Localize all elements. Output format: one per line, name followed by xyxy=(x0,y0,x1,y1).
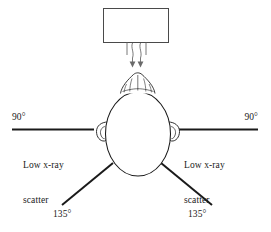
angle-label-right-90: 90° xyxy=(206,112,258,124)
beam-arrow-shaft-right xyxy=(140,43,141,64)
scatter-area-label-left-line3: area xyxy=(23,229,64,232)
xray-tube-box xyxy=(104,9,169,43)
scatter-area-label-right-line3: area xyxy=(184,229,225,232)
angle-label-left-90: 90° xyxy=(12,112,26,124)
primary-beam-arrows xyxy=(130,43,144,68)
scatter-area-label-left-line1: Low x-ray xyxy=(23,160,64,172)
scatter-boundary-line-left-135 xyxy=(62,163,113,205)
scatter-area-label-left-line2: scatter xyxy=(23,195,64,207)
angle-label-left-135: 135° xyxy=(53,209,71,221)
beam-arrow-head-left xyxy=(130,62,136,68)
xray-scatter-diagram: 90° 90° Low x-ray scatter area Low x-ray… xyxy=(0,0,271,232)
beam-arrow-shaft-left xyxy=(132,43,133,64)
beam-arrow-head-right xyxy=(138,62,144,68)
scatter-area-label-right-line1: Low x-ray xyxy=(184,160,225,172)
skull-outline xyxy=(106,92,171,176)
scatter-area-label-right-line2: scatter xyxy=(184,195,225,207)
angle-label-right-135: 135° xyxy=(188,209,206,221)
patient-head xyxy=(97,73,180,176)
